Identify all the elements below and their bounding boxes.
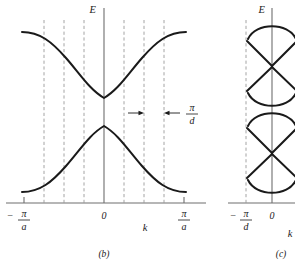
mini-zone-label-denominator: d: [190, 115, 196, 126]
xtick-right-denominator: a: [182, 221, 187, 232]
panel-b-xtick-label-zero: 0: [102, 210, 107, 221]
panel-b-e-axis-label: E: [89, 4, 97, 15]
panel-c-folded-bands: [247, 26, 295, 193]
panel-c-caption: (c): [276, 249, 287, 260]
panel-b: E k π d: [6, 4, 206, 260]
panel-b-xtick-label-right: π a: [178, 208, 190, 232]
mini-zone-label-numerator: π: [189, 102, 195, 113]
panel-c-subband: [272, 128, 295, 153]
panel-c-e-axis-label: E: [258, 4, 266, 15]
panel-c-xtick-label-zero: 0: [270, 210, 275, 221]
xtick-right-numerator: π: [181, 208, 187, 219]
panel-c-subband: [272, 67, 295, 91]
panel-c: E k: [228, 4, 295, 260]
band-structure-figure: E k π d: [0, 0, 295, 267]
panel-b-xtick-label-left: − π a: [7, 208, 30, 232]
panel-b-mini-zone-annotation: π d: [128, 102, 198, 126]
panel-b-k-axis-label: k: [143, 222, 148, 233]
panel-c-subband: [247, 128, 272, 153]
panel-c-subband: [272, 41, 295, 66]
panel-c-subband: [247, 154, 272, 178]
panel-c-xtick-left-numerator: π: [243, 208, 249, 219]
panel-c-subband: [272, 154, 295, 178]
xtick-left-denominator: a: [22, 221, 27, 232]
xtick-left-numerator: π: [21, 208, 27, 219]
panel-c-xtick-label-left: − π d: [230, 208, 252, 232]
panel-c-minus-sign: −: [230, 210, 237, 221]
panel-b-caption: (b): [98, 249, 109, 260]
panel-c-subband: [247, 67, 272, 91]
mini-zone-arrow-right-head: [164, 111, 170, 115]
panel-c-subband: [247, 41, 272, 66]
panel-c-k-axis-label: k: [288, 228, 293, 239]
minus-sign: −: [7, 210, 14, 221]
mini-zone-arrow-left-head: [139, 111, 145, 115]
panel-c-xtick-left-denominator: d: [244, 221, 250, 232]
